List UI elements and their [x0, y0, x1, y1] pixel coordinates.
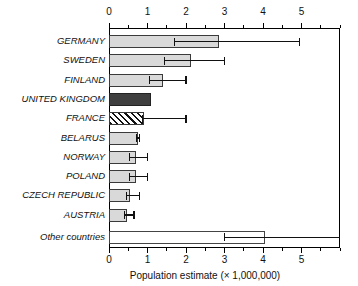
- bar: [109, 132, 138, 145]
- error-bar-cap: [224, 233, 225, 241]
- category-label: POLAND: [66, 170, 105, 181]
- top-axis-tick-label: 5: [292, 6, 312, 17]
- error-bar: [129, 176, 147, 177]
- category-label: BELARUS: [61, 132, 105, 143]
- error-bar-cap: [185, 115, 186, 123]
- bottom-axis-minor-tick: [340, 248, 341, 251]
- top-axis-minor-tick: [243, 25, 244, 28]
- bar: [109, 93, 151, 106]
- bottom-axis-minor-tick: [205, 248, 206, 251]
- top-axis-minor-tick: [340, 25, 341, 28]
- error-bar-cap: [139, 192, 140, 200]
- top-axis-major-tick: [263, 23, 264, 28]
- error-bar-cap: [126, 192, 127, 200]
- error-bar-cap: [129, 153, 130, 161]
- error-bar-cap: [164, 57, 165, 65]
- bottom-axis-minor-tick: [128, 248, 129, 251]
- population-estimate-bar-chart: Population estimate (× 1,000,000) 001122…: [0, 0, 358, 286]
- category-label: NORWAY: [63, 151, 105, 162]
- error-bar-cap: [174, 38, 175, 46]
- bottom-axis-major-tick: [224, 248, 225, 253]
- bar: [109, 112, 144, 125]
- top-axis-major-tick: [109, 23, 110, 28]
- error-bar-cap: [139, 134, 140, 142]
- error-bar-cap: [224, 57, 225, 65]
- category-label: GERMANY: [57, 35, 105, 46]
- error-bar: [129, 157, 147, 158]
- top-axis-major-tick: [301, 23, 302, 28]
- error-bar-cap: [124, 211, 125, 219]
- bottom-axis-major-tick: [147, 248, 148, 253]
- category-label: AUSTRIA: [64, 209, 105, 220]
- error-bar-cap: [133, 211, 134, 219]
- category-label: FRANCE: [66, 112, 105, 123]
- error-bar-cap: [129, 173, 130, 181]
- top-axis-minor-tick: [320, 25, 321, 28]
- bottom-axis-tick-label: 3: [215, 254, 235, 265]
- bottom-axis-tick-label: 5: [292, 254, 312, 265]
- top-axis-tick-label: 4: [253, 6, 273, 17]
- bottom-axis-minor-tick: [243, 248, 244, 251]
- bottom-axis-minor-tick: [166, 248, 167, 251]
- error-bar-cap: [185, 76, 186, 84]
- error-bar-cap: [149, 76, 150, 84]
- category-label: SWEDEN: [63, 54, 105, 65]
- category-label: Other countries: [40, 231, 105, 242]
- top-axis-tick-label: 0: [99, 6, 119, 17]
- top-axis-major-tick: [186, 23, 187, 28]
- bottom-axis-minor-tick: [320, 248, 321, 251]
- error-bar: [143, 118, 186, 119]
- top-axis-tick-label: 1: [138, 6, 158, 17]
- x-axis-title: Population estimate (× 1,000,000): [60, 270, 350, 281]
- category-label: CZECH REPUBLIC: [22, 189, 105, 200]
- error-bar: [165, 60, 225, 61]
- top-axis-major-tick: [147, 23, 148, 28]
- error-bar-cap: [136, 134, 137, 142]
- bottom-axis-major-tick: [263, 248, 264, 253]
- top-axis-tick-label: 3: [215, 6, 235, 17]
- bottom-axis-major-tick: [301, 248, 302, 253]
- error-bar: [149, 80, 186, 81]
- error-bar: [126, 195, 139, 196]
- error-bar-cap: [142, 115, 143, 123]
- error-bar: [174, 41, 299, 42]
- error-bar-cap: [147, 153, 148, 161]
- top-axis-minor-tick: [205, 25, 206, 28]
- top-axis-tick-label: 2: [176, 6, 196, 17]
- bottom-axis-tick-label: 0: [99, 254, 119, 265]
- bottom-axis-major-tick: [109, 248, 110, 253]
- bottom-axis-tick-label: 1: [138, 254, 158, 265]
- bottom-axis-tick-label: 2: [176, 254, 196, 265]
- top-axis-minor-tick: [128, 25, 129, 28]
- category-label: UNITED KINGDOM: [22, 93, 105, 104]
- error-bar: [225, 237, 341, 238]
- error-bar-cap: [147, 173, 148, 181]
- top-axis-major-tick: [224, 23, 225, 28]
- bottom-axis-minor-tick: [282, 248, 283, 251]
- bottom-axis-major-tick: [186, 248, 187, 253]
- top-axis-minor-tick: [166, 25, 167, 28]
- category-label: FINLAND: [64, 74, 105, 85]
- bottom-axis-tick-label: 4: [253, 254, 273, 265]
- error-bar-cap: [299, 38, 300, 46]
- top-axis-minor-tick: [282, 25, 283, 28]
